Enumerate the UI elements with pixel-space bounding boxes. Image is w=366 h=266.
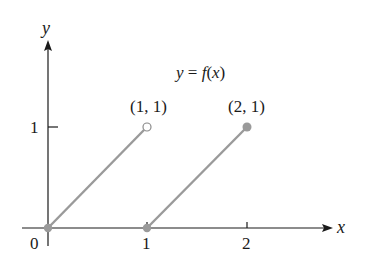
filled-point-1-0 — [143, 224, 151, 232]
function-label: y = f(x) — [174, 63, 225, 82]
origin-label: 0 — [30, 234, 39, 253]
function-label-y: y — [174, 63, 184, 82]
open-point-1-1 — [143, 123, 151, 131]
function-graph: y x 0 1 2 1 (1, 1) (2, 1) y = f(x) — [0, 0, 366, 266]
x-tick-label-2: 2 — [242, 234, 251, 253]
y-axis-label: y — [40, 18, 50, 38]
x-axis-label: x — [336, 217, 345, 237]
function-label-eq: = — [184, 63, 202, 82]
segment-2 — [147, 127, 247, 228]
segment-1 — [48, 130, 144, 228]
curve — [48, 127, 247, 228]
markers — [44, 123, 252, 233]
x-tick-label-1: 1 — [142, 234, 151, 253]
point-label-2-1: (2, 1) — [228, 97, 265, 116]
function-label-arg: (x) — [206, 63, 225, 82]
filled-point-origin — [44, 224, 52, 232]
ticks — [48, 127, 247, 228]
y-tick-label-1: 1 — [30, 118, 39, 137]
filled-point-2-1 — [243, 123, 252, 132]
point-label-1-1: (1, 1) — [130, 97, 167, 116]
